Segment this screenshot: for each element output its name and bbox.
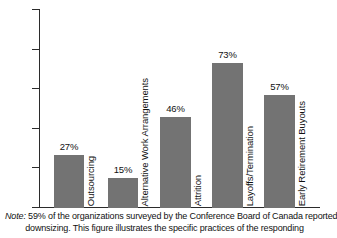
category-label-attrition: Attrition bbox=[193, 175, 203, 206]
y-tick-40: 40% bbox=[0, 128, 40, 129]
bar-attrition: 46% bbox=[160, 117, 191, 208]
note-line-2: downsizing. This figure illustrates the … bbox=[0, 223, 323, 235]
y-tick-80: 80% bbox=[0, 49, 40, 50]
figure-note: Note: 59% of the organizations surveyed … bbox=[0, 211, 323, 234]
bar-outsourcing: 27% bbox=[54, 155, 84, 208]
category-label-layoffs-termination: Layoffs/Termination bbox=[245, 126, 255, 206]
y-tick-60: 60% bbox=[0, 88, 40, 89]
bar-alternative-work-arrangements: 15% bbox=[108, 178, 138, 208]
category-label-outsourcing: Outsourcing bbox=[86, 156, 96, 206]
note-line-1-text: 59% of the organizations surveyed by the… bbox=[26, 211, 337, 221]
y-tick-20: 20% bbox=[0, 167, 40, 168]
bar-value-label: 15% bbox=[114, 164, 133, 175]
bar-value-label: 57% bbox=[270, 81, 289, 92]
bar-early-retirement-buyouts: 57% bbox=[264, 95, 295, 208]
y-tick-mark bbox=[32, 9, 40, 10]
category-label-early-retirement-buyouts: Early Retirement Buyouts bbox=[297, 101, 307, 206]
y-tick-mark bbox=[32, 49, 40, 50]
y-tick-mark bbox=[32, 88, 40, 89]
y-tick-mark bbox=[32, 207, 40, 208]
note-line-1: Note: 59% of the organizations surveyed … bbox=[0, 211, 323, 223]
bar-value-label: 73% bbox=[218, 49, 237, 60]
y-tick-mark bbox=[32, 128, 40, 129]
y-tick-0: 0 bbox=[0, 207, 40, 208]
y-tick-100: 100% bbox=[0, 9, 40, 10]
bar-value-label: 46% bbox=[166, 103, 185, 114]
y-axis-line bbox=[39, 9, 40, 208]
note-prefix: Note: bbox=[5, 211, 26, 221]
y-tick-mark bbox=[32, 167, 40, 168]
category-label-alternative-work-arrangements: Alternative Work Arrangements bbox=[140, 78, 150, 206]
bar-value-label: 27% bbox=[60, 141, 79, 152]
bar-layoffs-termination: 73% bbox=[212, 63, 243, 208]
plot-area: 0 20% 40% 60% 80% 100% 27% Outsourcing 1… bbox=[0, 0, 323, 211]
